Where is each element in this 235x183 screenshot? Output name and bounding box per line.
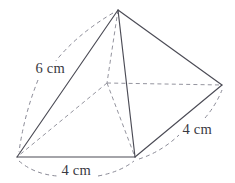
pyramid-drawing	[0, 0, 235, 183]
dimension-label-base-front-edge: 4 cm	[60, 163, 92, 178]
hidden-edge-apex-to-back-vertex	[107, 10, 118, 83]
hidden-edge-back-vertex-to-right-vertex	[107, 83, 222, 85]
dimension-arcs-group	[19, 13, 222, 176]
dimension-label-base-side-edge: 4 cm	[181, 122, 213, 137]
dimension-label-slant-edge: 6 cm	[34, 61, 66, 76]
hidden-edge-back-vertex-to-left-vertex	[17, 83, 107, 157]
dimension-arc-base-side-edge-lower	[139, 135, 179, 159]
edge-apex-to-left-vertex	[17, 10, 118, 157]
dimension-arc-slant-edge-upper	[55, 13, 113, 62]
dimension-arc-base-front-edge-right	[98, 161, 134, 176]
dimension-arc-base-front-edge-left	[19, 161, 57, 176]
dimension-arc-base-side-edge-upper	[205, 90, 222, 118]
edge-apex-to-right-vertex	[118, 10, 222, 85]
pyramid-figure: 6 cm 4 cm 4 cm	[0, 0, 235, 183]
